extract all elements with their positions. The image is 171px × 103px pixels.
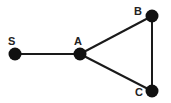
label-b: B bbox=[134, 5, 142, 17]
node-a bbox=[74, 48, 87, 61]
node-s bbox=[9, 48, 22, 61]
label-s: S bbox=[8, 35, 15, 47]
node-c bbox=[146, 85, 159, 98]
label-a: A bbox=[74, 35, 82, 47]
node-b bbox=[146, 10, 159, 23]
edge-a-b bbox=[80, 16, 152, 54]
label-c: C bbox=[135, 86, 143, 98]
graph-diagram: S A B C bbox=[0, 0, 171, 103]
